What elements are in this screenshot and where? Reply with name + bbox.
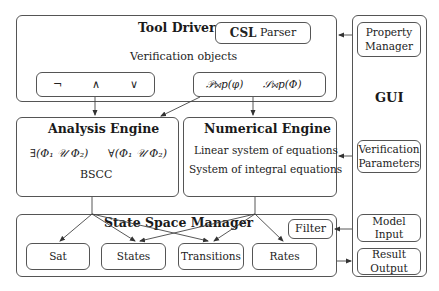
filter-box: Filter (288, 219, 333, 239)
gui-title: GUI (375, 90, 404, 105)
operator-not: ¬ (53, 78, 62, 91)
operator-or: ∨ (130, 78, 138, 91)
states-label: States (117, 250, 151, 263)
rates-box: Rates (252, 243, 317, 270)
csl-parser-box: CSL Parser (215, 22, 311, 44)
result-output-label: Result Output (367, 248, 411, 274)
analysis-engine-title: Analysis Engine (48, 121, 159, 136)
verification-objects-label: Verification objects (130, 50, 237, 63)
forall-until-formula: ∀(Φ₁ 𝒰 Φ₂) (108, 147, 167, 160)
operator-and: ∧ (92, 78, 100, 91)
sat-label: Sat (49, 250, 67, 263)
model-input-label: Model Input (369, 215, 409, 241)
exists-until-formula: ∃(Φ₁ 𝒰 Φ₂) (30, 147, 88, 160)
verification-parameters-box: Verification Parameters (357, 140, 421, 173)
model-input-box: Model Input (357, 214, 421, 242)
property-manager-box: Property Manager (357, 22, 421, 57)
transitions-box: Transitions (178, 243, 244, 270)
linear-system-label: Linear system of equations (194, 144, 338, 156)
transitions-label: Transitions (181, 250, 241, 263)
csl-parser-bold: CSL (230, 26, 257, 41)
tool-driver-title: Tool Driver (138, 20, 216, 35)
states-box: States (101, 243, 166, 270)
result-output-box: Result Output (357, 248, 421, 275)
state-space-manager-title: State Space Manager (104, 215, 253, 230)
integral-system-label: System of integral equations (189, 163, 342, 175)
steady-state-operator: 𝒮⋈p(Φ) (263, 78, 302, 91)
probability-operator: 𝒫⋈p(φ) (206, 78, 243, 91)
csl-parser-rest: Parser (257, 26, 297, 40)
filter-label: Filter (295, 222, 326, 236)
property-manager-label: Property Manager (362, 26, 416, 52)
verification-parameters-label: Verification Parameters (358, 143, 420, 169)
bscc-label: BSCC (80, 168, 112, 181)
sat-box: Sat (26, 243, 90, 270)
rates-label: Rates (269, 250, 299, 263)
numerical-engine-title: Numerical Engine (204, 121, 331, 136)
